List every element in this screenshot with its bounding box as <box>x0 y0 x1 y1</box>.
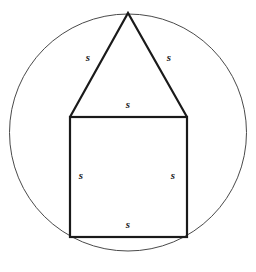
label-square-bottom-side: s <box>126 219 130 230</box>
label-square-left-side: s <box>79 170 83 181</box>
figure-drawing <box>0 0 256 272</box>
label-square-right-side: s <box>171 170 175 181</box>
geometry-figure: s s s s s s <box>0 0 256 272</box>
circumscribed-circle <box>10 14 247 251</box>
label-triangle-right-side: s <box>167 52 171 63</box>
label-square-top-side: s <box>126 99 130 110</box>
label-triangle-left-side: s <box>86 52 90 63</box>
